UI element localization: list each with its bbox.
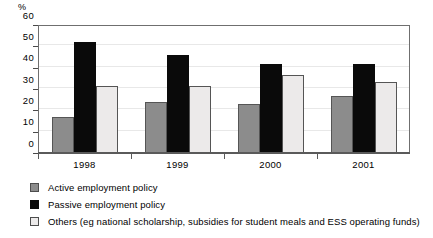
y-tick-label: 60 (4, 11, 34, 21)
x-tick-label: 1999 (166, 159, 188, 170)
y-tick-label: 0 (4, 139, 34, 149)
x-tick-label: 2001 (352, 159, 374, 170)
y-tick-mark (33, 153, 38, 154)
y-tick-label: 40 (4, 53, 34, 63)
y-tick-mark (33, 89, 38, 90)
y-tick-mark (33, 110, 38, 111)
gridline (39, 44, 409, 45)
gridline (39, 87, 409, 88)
plot-area (38, 25, 410, 153)
legend-swatch-icon (30, 217, 39, 226)
x-tick-mark (131, 154, 132, 159)
x-tick-mark (317, 154, 318, 159)
legend-swatch-icon (30, 183, 39, 192)
gridline (39, 130, 409, 131)
legend-label: Passive employment policy (48, 199, 165, 210)
y-axis: 0102030405060 (0, 25, 34, 153)
legend-item: Others (eg national scholarship, subsidi… (30, 214, 430, 229)
legend-item: Passive employment policy (30, 197, 430, 212)
bar-chart: % 0102030405060 1998199920002001 Active … (0, 0, 433, 238)
y-tick-mark (33, 68, 38, 69)
y-tick-label: 10 (4, 117, 34, 127)
gridline (39, 66, 409, 67)
x-tick-label: 1998 (73, 159, 95, 170)
legend: Active employment policyPassive employme… (30, 180, 430, 231)
y-tick-mark (33, 25, 38, 26)
legend-swatch-icon (30, 200, 39, 209)
gridline (39, 108, 409, 109)
x-tick-mark (224, 154, 225, 159)
y-tick-label: 30 (4, 75, 34, 85)
x-tick-mark (38, 154, 39, 159)
legend-item: Active employment policy (30, 180, 430, 195)
y-tick-mark (33, 132, 38, 133)
legend-label: Others (eg national scholarship, subsidi… (48, 216, 420, 227)
x-tick-label: 2000 (259, 159, 281, 170)
y-tick-mark (33, 46, 38, 47)
legend-label: Active employment policy (48, 182, 158, 193)
y-tick-label: 50 (4, 32, 34, 42)
y-tick-label: 20 (4, 96, 34, 106)
